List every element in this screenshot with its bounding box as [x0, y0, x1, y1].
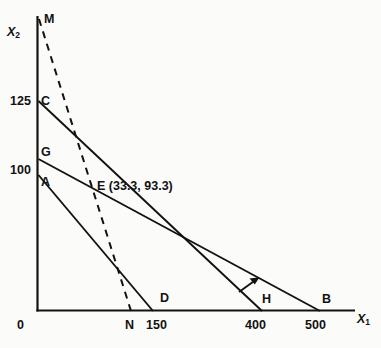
equilibrium-label: E (33.3, 93.3)	[97, 180, 173, 193]
y-tick-125: 125	[10, 95, 31, 108]
x-tick-0: 0	[17, 319, 24, 332]
linear-programming-diagram: X2 X1 125 100 0 N 150 400 500 M C G A D …	[0, 0, 381, 348]
point-label-H: H	[262, 293, 271, 306]
line-AD	[39, 175, 154, 311]
point-label-C: C	[41, 95, 50, 108]
x-tick-N: N	[125, 319, 134, 332]
point-label-A: A	[41, 176, 50, 189]
point-label-D: D	[160, 292, 169, 305]
point-label-G: G	[41, 146, 51, 159]
x-axis-title: X1	[357, 313, 370, 326]
line-CH	[39, 101, 263, 311]
point-label-B: B	[322, 293, 331, 306]
equilibrium-point-name: E	[97, 179, 105, 193]
line-GB	[39, 159, 321, 311]
x-tick-500: 500	[305, 319, 326, 332]
x-tick-400: 400	[245, 319, 266, 332]
direction-arrow-icon	[239, 277, 260, 292]
y-tick-100: 100	[10, 164, 31, 177]
equilibrium-coordinates: (33.3, 93.3)	[109, 179, 173, 193]
x-tick-150: 150	[146, 319, 167, 332]
y-axis-title: X2	[7, 26, 20, 39]
point-label-M: M	[44, 13, 54, 26]
